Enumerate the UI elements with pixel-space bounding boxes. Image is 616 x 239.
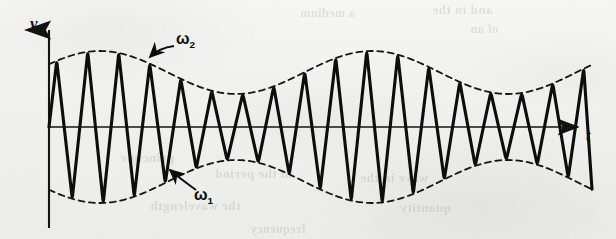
waveform-svg [0, 0, 616, 239]
beats-figure: and in thea mediumof anprinciplein the p… [0, 0, 616, 239]
upper-envelope-curve [49, 51, 592, 94]
omega2-leader-arrow [150, 46, 174, 57]
omega1-leader-arrow [170, 170, 196, 190]
plot-area [0, 0, 616, 239]
